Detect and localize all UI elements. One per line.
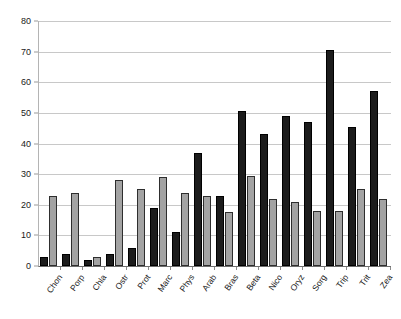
bar — [137, 189, 145, 266]
y-tick-label: 50 — [1, 108, 31, 117]
bar-group — [39, 21, 61, 266]
x-tick-mark — [368, 267, 369, 270]
bar — [304, 122, 312, 266]
bar-group — [171, 21, 193, 266]
bar — [62, 254, 70, 266]
bar — [49, 196, 57, 266]
x-tick-mark — [302, 267, 303, 270]
x-tick-mark — [148, 267, 149, 270]
bars-layer — [39, 21, 391, 266]
bar-group — [325, 21, 347, 266]
x-tick-mark — [104, 267, 105, 270]
bar — [106, 254, 114, 266]
x-tick-label: Porp — [68, 273, 85, 293]
bar-group — [127, 21, 149, 266]
bar — [348, 127, 356, 266]
bar-group — [347, 21, 369, 266]
bar — [225, 212, 233, 266]
x-tick-label: Beta — [245, 273, 262, 292]
bar — [247, 176, 255, 266]
bar — [238, 111, 246, 266]
x-tick-mark — [236, 267, 237, 270]
x-tick-mark — [170, 267, 171, 270]
y-tick-label: 40 — [1, 139, 31, 148]
x-tick-mark — [346, 267, 347, 270]
x-tick-label: Sorg — [310, 273, 327, 293]
bar — [128, 248, 136, 266]
x-tick-label: Arab — [200, 273, 217, 293]
bar — [216, 196, 224, 266]
bar — [159, 177, 167, 266]
x-tick-label: Trip — [334, 273, 349, 290]
bar-group — [215, 21, 237, 266]
bar — [313, 211, 321, 266]
x-tick-mark — [126, 267, 127, 270]
x-tick-label: Chla — [91, 273, 108, 292]
bar — [194, 153, 202, 266]
x-tick-mark — [214, 267, 215, 270]
bar — [291, 202, 299, 266]
x-tick-mark — [60, 267, 61, 270]
bar — [84, 260, 92, 266]
x-tick-label: Oryz — [288, 273, 305, 293]
x-tick-label: Phys — [178, 273, 196, 293]
y-tick-label: 60 — [1, 78, 31, 87]
bar-group — [303, 21, 325, 266]
plot-area — [38, 21, 391, 267]
x-tick-label: Prot — [136, 273, 152, 291]
y-tick-label: 10 — [1, 231, 31, 240]
x-tick-mark — [390, 267, 391, 270]
x-tick-label: Zea — [378, 273, 393, 290]
bar-group — [149, 21, 171, 266]
y-tick-label: 80 — [1, 17, 31, 26]
y-tick-label: 0 — [1, 262, 31, 271]
bar — [172, 232, 180, 266]
x-axis: ChonPorpChlaOstrProtMarcPhysArabBrasBeta… — [38, 267, 390, 319]
bar-group — [237, 21, 259, 266]
bar-chart: 01020304050607080 ChonPorpChlaOstrProtMa… — [0, 0, 401, 319]
y-axis: 01020304050607080 — [0, 0, 34, 319]
x-tick-mark — [82, 267, 83, 270]
bar-group — [193, 21, 215, 266]
x-tick-label: Nico — [267, 273, 284, 292]
bar-group — [281, 21, 303, 266]
x-tick-mark — [258, 267, 259, 270]
bar-group — [61, 21, 83, 266]
bar-group — [105, 21, 127, 266]
y-tick-label: 30 — [1, 170, 31, 179]
bar — [335, 211, 343, 266]
bar — [71, 193, 79, 267]
bar — [40, 257, 48, 266]
x-tick-mark — [280, 267, 281, 270]
bar — [93, 257, 101, 266]
x-tick-label: Marc — [156, 273, 174, 293]
x-tick-mark — [324, 267, 325, 270]
bar-group — [259, 21, 281, 266]
bar — [282, 116, 290, 266]
bar — [181, 193, 189, 267]
x-tick-label: Chon — [45, 273, 64, 295]
x-tick-mark — [192, 267, 193, 270]
bar-group — [83, 21, 105, 266]
bar — [379, 199, 387, 266]
x-tick-label: Trit — [358, 273, 372, 288]
x-tick-label: Bras — [223, 273, 240, 292]
y-tick-label: 70 — [1, 47, 31, 56]
bar — [357, 189, 365, 266]
bar — [115, 180, 123, 266]
bar — [150, 208, 158, 266]
bar — [370, 91, 378, 266]
bar — [269, 199, 277, 266]
bar — [326, 50, 334, 266]
x-tick-label: Ostr — [113, 273, 129, 291]
bar — [260, 134, 268, 266]
y-tick-label: 20 — [1, 200, 31, 209]
bar — [203, 196, 211, 266]
bar-group — [369, 21, 391, 266]
